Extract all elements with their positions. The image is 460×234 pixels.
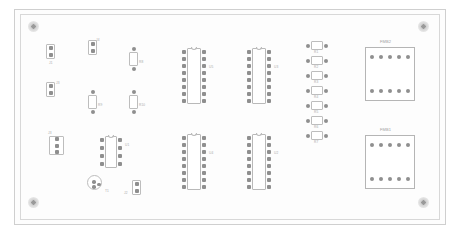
- module-pad: [388, 143, 392, 147]
- connector-j3-3[interactable]: [49, 136, 64, 155]
- connector-pad: [49, 46, 53, 50]
- connector-pad: [55, 137, 59, 141]
- hole-bottom-left: [28, 197, 39, 208]
- resistor-body: [311, 116, 323, 125]
- silkscreen-reference-j3: J3: [56, 82, 60, 85]
- ic-pad: [202, 178, 206, 182]
- resistor-pad: [324, 74, 328, 78]
- resistor-pad: [324, 59, 328, 63]
- resistor-body: [311, 131, 323, 140]
- ic-pad: [202, 78, 206, 82]
- resistor-pad: [132, 67, 136, 71]
- ic-pad: [247, 164, 251, 168]
- silkscreen-reference-r2: R2: [314, 66, 318, 69]
- ic-body: [187, 134, 201, 190]
- silkscreen-reference-r3: R3: [314, 81, 318, 84]
- ic-pad: [267, 136, 271, 140]
- ic-body: [252, 48, 266, 104]
- silkscreen-reference-r10: R10: [139, 104, 145, 107]
- module-pad: [388, 177, 392, 181]
- silkscreen-reference-j1: J1: [49, 62, 53, 65]
- module-pad: [397, 55, 401, 59]
- ic-pad: [118, 154, 122, 158]
- ic-pad: [267, 50, 271, 54]
- ic-pad: [100, 138, 104, 142]
- resistor-body: [311, 41, 323, 50]
- ic-pad: [247, 85, 251, 89]
- ic-pad: [182, 157, 186, 161]
- connector-pad: [91, 49, 95, 53]
- module-fmb1: [365, 135, 415, 189]
- ic-pad: [118, 138, 122, 142]
- module-pad: [397, 143, 401, 147]
- silkscreen-reference-r9: R9: [98, 104, 102, 107]
- connector-pad: [135, 189, 139, 193]
- resistor-pad: [306, 89, 310, 93]
- ic-pad: [247, 71, 251, 75]
- ic-u1: [100, 136, 122, 168]
- ic-u4: [182, 134, 206, 190]
- ic-pad: [202, 136, 206, 140]
- resistor-r8: [129, 47, 138, 71]
- ic-pad: [202, 164, 206, 168]
- ic-pad: [118, 146, 122, 150]
- ic-pad: [267, 99, 271, 103]
- resistor-body: [311, 56, 323, 65]
- ic-pad: [267, 178, 271, 182]
- connector-j3-1[interactable]: [46, 82, 55, 97]
- module-pad: [406, 177, 410, 181]
- connector-j1-0[interactable]: [46, 44, 55, 59]
- ic-pad: [247, 99, 251, 103]
- connector-pad: [135, 182, 139, 186]
- resistor-pad: [132, 90, 136, 94]
- ic-pad: [202, 185, 206, 189]
- ic-pad: [202, 71, 206, 75]
- ic-pad: [182, 78, 186, 82]
- silkscreen-reference-j3: J3: [48, 132, 52, 135]
- resistor-body: [129, 95, 138, 109]
- resistor-pad: [306, 44, 310, 48]
- ic-pad: [202, 99, 206, 103]
- ic-pad: [247, 78, 251, 82]
- module-pad: [379, 89, 383, 93]
- module-pad: [397, 177, 401, 181]
- resistor-r9: [88, 90, 97, 114]
- ic-pad: [202, 143, 206, 147]
- ic-body: [105, 136, 117, 168]
- transistor-pad: [92, 185, 96, 189]
- resistor-body: [129, 52, 138, 66]
- ic-pad: [182, 50, 186, 54]
- module-pad: [397, 89, 401, 93]
- silkscreen-reference-u3: U3: [274, 66, 278, 69]
- resistor-pad: [306, 134, 310, 138]
- ic-pad: [182, 99, 186, 103]
- ic-pad: [247, 57, 251, 61]
- ic-pad: [247, 136, 251, 140]
- connector-j2-4[interactable]: [132, 180, 141, 195]
- ic-pad: [182, 57, 186, 61]
- ic-pad: [182, 164, 186, 168]
- module-pad: [388, 89, 392, 93]
- ic-pad: [247, 64, 251, 68]
- resistor-pad: [91, 110, 95, 114]
- transistor-t1: [87, 175, 102, 190]
- connector-pad: [55, 144, 59, 148]
- connector-pad: [49, 53, 53, 57]
- module-pad: [379, 143, 383, 147]
- transistor-pad: [97, 183, 101, 187]
- silkscreen-reference-t1: T1: [105, 190, 109, 193]
- connector-pad: [49, 84, 53, 88]
- module-fmb2: [365, 47, 415, 101]
- ic-pad: [247, 178, 251, 182]
- resistor-r5: [306, 101, 328, 110]
- connector-j4-2[interactable]: [88, 40, 97, 55]
- ic-pad: [267, 92, 271, 96]
- module-pad: [379, 177, 383, 181]
- ic-pad: [267, 85, 271, 89]
- connector-pad: [91, 42, 95, 46]
- silkscreen-reference-u4: U4: [209, 152, 213, 155]
- ic-pad: [247, 143, 251, 147]
- module-pad: [370, 55, 374, 59]
- board-outline-inner: [20, 14, 440, 220]
- hole-top-left: [28, 21, 39, 32]
